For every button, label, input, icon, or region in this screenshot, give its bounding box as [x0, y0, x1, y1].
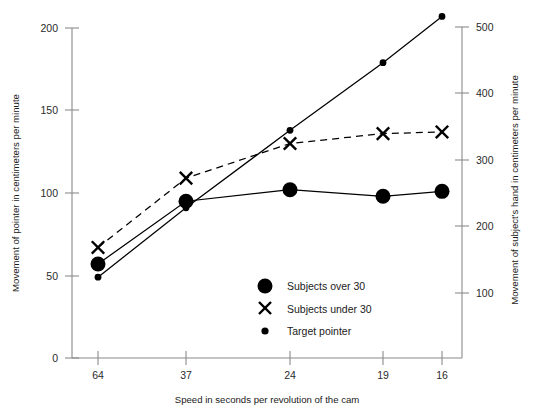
left-ticklabel-150: 150	[40, 104, 58, 116]
chart-background	[0, 0, 534, 419]
data-point-marker	[183, 204, 190, 211]
right-ticklabel-300: 300	[476, 154, 494, 166]
data-point-marker	[95, 274, 102, 281]
legend-marker-subjects-over-30	[258, 279, 273, 294]
data-point-marker	[91, 256, 106, 271]
data-point-marker	[287, 127, 294, 134]
left-ticklabel-50: 50	[46, 270, 58, 282]
legend-marker-target-pointer	[261, 327, 268, 334]
data-point-marker	[439, 13, 446, 20]
data-point-marker	[376, 189, 391, 204]
legend-label-target-pointer: Target pointer	[287, 325, 352, 337]
left-ticklabel-200: 200	[40, 22, 58, 34]
y2-axis-title: Movement of subject's hand in centimeter…	[509, 75, 520, 305]
data-point-marker	[380, 59, 387, 66]
chart-figure: 200 150 100 50 0 Movement of pointer in …	[0, 0, 534, 419]
data-point-marker	[283, 182, 298, 197]
x-axis-title: Speed in seconds per revolution of the c…	[175, 394, 360, 405]
legend-label-subjects-over-30: Subjects over 30	[287, 280, 365, 292]
left-ticklabel-100: 100	[40, 187, 58, 199]
left-ticklabel-0: 0	[52, 352, 58, 364]
legend-label-subjects-under-30: Subjects under 30	[287, 303, 372, 315]
x-ticklabel-16: 16	[436, 369, 448, 381]
x-ticklabel-37: 37	[180, 369, 192, 381]
x-ticklabel-24: 24	[284, 369, 296, 381]
right-ticklabel-400: 400	[476, 87, 494, 99]
right-ticklabel-500: 500	[476, 21, 494, 33]
chart-svg: 200 150 100 50 0 Movement of pointer in …	[0, 0, 534, 419]
right-ticklabel-100: 100	[476, 287, 494, 299]
y-axis-title: Movement of pointer in centimeters per m…	[10, 94, 21, 292]
data-point-marker	[435, 184, 450, 199]
x-ticklabel-19: 19	[377, 369, 389, 381]
right-ticklabel-200: 200	[476, 220, 494, 232]
x-ticklabel-64: 64	[92, 369, 104, 381]
